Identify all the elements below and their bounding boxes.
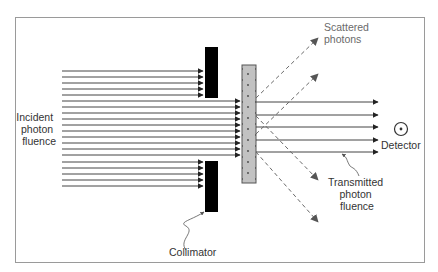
- detector-label: Detector: [381, 139, 421, 151]
- scattered-rays: [256, 38, 318, 222]
- transmitted-label: Transmitted photon fluence: [328, 176, 386, 212]
- detector-icon: [395, 123, 408, 136]
- incident-rays-blocked-upper: [62, 71, 203, 95]
- collimator-upper: [205, 47, 218, 98]
- collimator-pointer: [184, 212, 204, 250]
- scattered-label: Scattered photons: [324, 21, 372, 45]
- transmitted-pointer: [342, 154, 359, 176]
- collimator-lower: [205, 161, 218, 212]
- photon-fluence-diagram: Incident photon fluence Collimator Scatt…: [0, 0, 438, 272]
- incident-label: Incident photon fluence: [16, 111, 56, 147]
- transmitted-rays: [256, 102, 378, 152]
- collimator-label: Collimator: [169, 246, 217, 258]
- attenuator-slab: [242, 65, 256, 183]
- incident-rays-blocked-lower: [62, 162, 203, 186]
- incident-rays-passing: [62, 101, 240, 155]
